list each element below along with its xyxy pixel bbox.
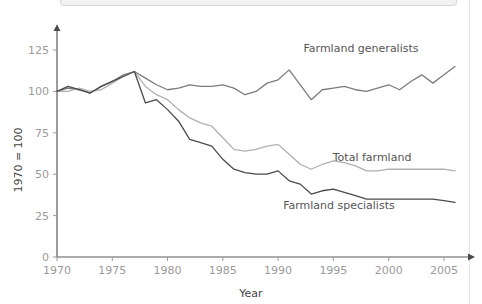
series-label: Total farmland [332, 151, 412, 164]
line-chart: 0255075100125 19701975198019851990199520… [0, 0, 482, 304]
x-axis: 19701975198019851990199520002005 [43, 257, 469, 277]
x-tick-label: 2000 [375, 264, 403, 277]
chart-root: 0255075100125 19701975198019851990199520… [0, 0, 482, 304]
x-tick-label: 1980 [154, 264, 182, 277]
y-tick-label: 125 [28, 44, 49, 57]
x-tick-label: 1970 [43, 264, 71, 277]
y-tick-label: 100 [28, 85, 49, 98]
series-line [57, 67, 455, 100]
x-tick-label: 2005 [430, 264, 458, 277]
y-tick-label: 25 [35, 210, 49, 223]
series-lines [57, 67, 455, 203]
chart-svg: 0255075100125 19701975198019851990199520… [0, 0, 482, 304]
series-label: Farmland specialists [283, 199, 395, 212]
y-tick-label: 75 [35, 127, 49, 140]
x-tick-label: 1995 [319, 264, 347, 277]
y-axis-title: 1970 = 100 [12, 127, 25, 192]
x-tick-label: 1990 [264, 264, 292, 277]
y-axis: 0255075100125 [28, 30, 57, 264]
y-tick-label: 0 [42, 251, 49, 264]
series-label: Farmland generalists [304, 42, 419, 55]
x-axis-title: Year [238, 287, 263, 300]
x-tick-label: 1985 [209, 264, 237, 277]
x-tick-label: 1975 [98, 264, 126, 277]
y-tick-label: 50 [35, 168, 49, 181]
